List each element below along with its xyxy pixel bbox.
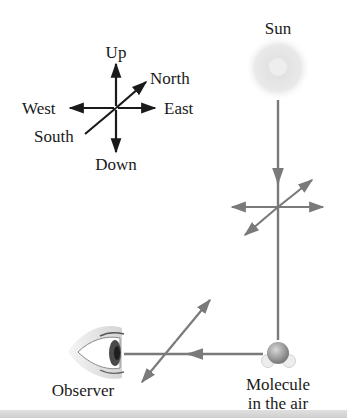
label-observer: Observer bbox=[52, 382, 114, 399]
north-south-axis bbox=[116, 82, 146, 108]
polarization-diagram: Up Down West East North South Sun Molecu… bbox=[0, 0, 347, 418]
polarized-field-vector bbox=[142, 300, 210, 382]
label-molecule-line1: Molecule bbox=[246, 376, 310, 393]
molecule-icon bbox=[262, 342, 296, 368]
eye-icon bbox=[68, 326, 124, 379]
compass-axes bbox=[70, 64, 155, 152]
bottom-border bbox=[0, 410, 347, 418]
label-up: Up bbox=[106, 44, 127, 61]
label-south: South bbox=[34, 128, 74, 145]
label-north: North bbox=[150, 70, 190, 87]
label-west: West bbox=[22, 100, 56, 117]
label-down: Down bbox=[95, 156, 137, 173]
label-east: East bbox=[164, 100, 193, 117]
label-sun: Sun bbox=[265, 20, 291, 37]
